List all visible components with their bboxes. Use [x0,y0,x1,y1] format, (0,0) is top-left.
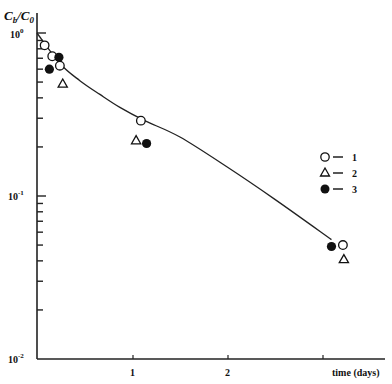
legend-filled-circle-icon [321,185,330,194]
y-tick-labels: 100 10-1 10-2 [8,27,24,365]
legend: 1 2 3 [321,152,358,195]
filled-circle-marker [327,242,336,251]
legend-label-3: 3 [352,184,357,195]
legend-label-2: 2 [352,168,357,179]
legend-open-circle-icon [321,153,329,161]
x-axis-label: time (days) [332,367,380,379]
open-circle-marker [339,241,348,250]
open-circle-marker [40,41,49,50]
x-tick-label-1: 1 [130,367,135,378]
filled-circle-marker [45,65,54,74]
filled-circle-marker [54,53,63,62]
chart: Cb/C0 100 10-1 10-2 1 2 time (days) 1 2 … [0,0,392,384]
legend-open-triangle-icon [321,168,330,176]
open-triangle-marker [58,79,67,87]
open-triangle-marker [339,255,348,263]
open-circle-marker [56,61,65,70]
data-points [40,41,348,263]
x-tick-label-2: 2 [225,367,230,378]
filled-circle-marker [142,139,151,148]
open-circle-marker [137,116,146,125]
y-tick-label-0.01: 10-2 [8,352,24,365]
legend-label-1: 1 [352,152,357,163]
fit-curve [37,33,331,240]
y-tick-label-1: 100 [10,27,24,40]
y-ticks [37,33,46,359]
open-triangle-marker [132,136,141,144]
y-axis-label: Cb/C0 [4,8,34,25]
y-tick-label-0.1: 10-1 [8,189,24,202]
